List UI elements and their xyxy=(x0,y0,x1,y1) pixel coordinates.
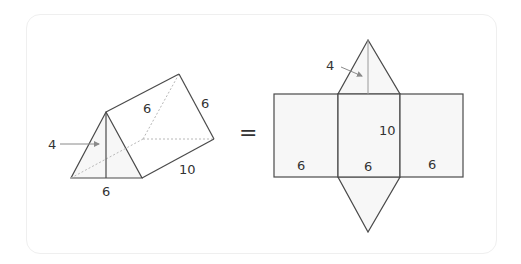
triangular-prism: 4 6 6 6 10 xyxy=(48,74,214,199)
net-middle-face-label: 6 xyxy=(364,159,372,174)
prism-bottom-right-edge xyxy=(142,139,214,178)
prism-base-label: 6 xyxy=(102,184,110,199)
net-right-face-label: 6 xyxy=(428,157,436,172)
prism-net: 4 10 6 6 6 xyxy=(274,40,463,232)
prism-slant-label-top: 6 xyxy=(143,101,151,116)
prism-slant-label-back: 6 xyxy=(201,96,209,111)
prism-net-diagram: 4 6 6 6 10 = 4 10 6 6 6 xyxy=(0,0,521,264)
net-top-triangle xyxy=(338,40,400,94)
net-left-face xyxy=(274,94,338,177)
net-length-label: 10 xyxy=(379,123,396,138)
net-height-label: 4 xyxy=(326,58,334,73)
net-left-face-label: 6 xyxy=(297,158,305,173)
prism-height-label: 4 xyxy=(48,137,56,152)
equals-sign: = xyxy=(239,120,257,145)
net-bottom-triangle xyxy=(338,177,400,232)
prism-length-label: 10 xyxy=(179,162,196,177)
